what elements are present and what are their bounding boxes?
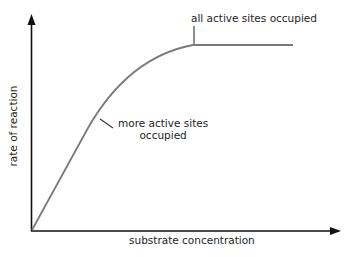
rising-annotation: more active sites occupied — [118, 117, 208, 141]
x-axis-arrow-icon — [330, 227, 341, 235]
y-axis-label: rate of reaction — [7, 86, 19, 167]
plateau-annotation: all active sites occupied — [191, 12, 317, 24]
rising-annotation-line1: more active sites — [118, 117, 208, 129]
y-axis-arrow-icon — [28, 14, 36, 25]
enzyme-rate-diagram: all active sites occupied more active si… — [0, 0, 352, 257]
rising-pointer — [100, 119, 113, 128]
x-axis-label: substrate concentration — [129, 234, 255, 246]
rising-annotation-line2: occupied — [118, 129, 208, 141]
